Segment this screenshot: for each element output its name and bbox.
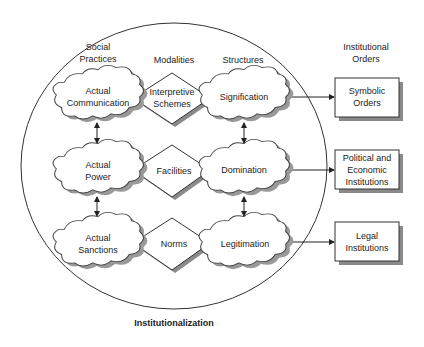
- label-actual-communication: Actual Communication: [67, 85, 130, 109]
- label-domination: Domination: [221, 164, 267, 176]
- label-symbolic-orders: Symbolic Orders: [349, 85, 386, 109]
- label-line: Schemes: [149, 98, 194, 110]
- label-actual-power: Actual Power: [85, 159, 111, 183]
- footer-institutionalization: Institutionalization: [134, 317, 214, 329]
- label-actual-sanctions: Actual Sanctions: [78, 232, 118, 256]
- label-interpretive-schemes: Interpretive Schemes: [149, 86, 194, 110]
- label-signification: Signification: [220, 91, 269, 103]
- label-line: Political and: [343, 152, 392, 164]
- label-line: Actual: [85, 159, 111, 171]
- header-institutional-orders: Institutional Orders: [343, 41, 389, 65]
- label-political-economic: Political and Economic Institutions: [343, 152, 392, 188]
- label-line: Institutions: [345, 242, 388, 254]
- label-line: Sanctions: [78, 244, 118, 256]
- label-line: Economic: [343, 164, 392, 176]
- label-line: Power: [85, 171, 111, 183]
- label-norms: Norms: [161, 238, 188, 250]
- header-text: Orders: [343, 53, 389, 65]
- label-line: Actual: [67, 85, 130, 97]
- label-line: Interpretive: [149, 86, 194, 98]
- label-line: Orders: [349, 97, 386, 109]
- label-facilities: Facilities: [156, 165, 191, 177]
- header-social-practices: Social Practices: [79, 41, 116, 65]
- label-line: Actual: [78, 232, 118, 244]
- header-structures: Structures: [222, 54, 263, 66]
- label-line: Legal: [345, 230, 388, 242]
- header-text: Social: [79, 41, 116, 53]
- label-line: Institutions: [343, 176, 392, 188]
- label-line: Communication: [67, 97, 130, 109]
- label-legitimation: Legitimation: [221, 238, 270, 250]
- label-legal-institutions: Legal Institutions: [345, 230, 388, 254]
- label-line: Symbolic: [349, 85, 386, 97]
- header-text: Institutional: [343, 41, 389, 53]
- header-text: Practices: [79, 53, 116, 65]
- header-modalities: Modalities: [154, 54, 195, 66]
